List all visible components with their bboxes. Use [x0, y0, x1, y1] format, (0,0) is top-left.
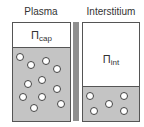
- pi-symbol: Π: [103, 53, 111, 65]
- protein-particle: [53, 65, 61, 73]
- interstitium-label: Interstitium: [82, 6, 140, 18]
- protein-particle: [105, 100, 113, 108]
- protein-particle: [90, 107, 98, 115]
- protein-particle: [27, 61, 35, 69]
- protein-particle: [57, 100, 65, 108]
- protein-particle: [24, 80, 32, 88]
- protein-particle: [16, 53, 24, 61]
- pi-symbol: Π: [31, 29, 39, 41]
- protein-particle: [42, 57, 50, 65]
- protein-particle: [120, 92, 128, 100]
- protein-particle: [53, 85, 61, 93]
- interstitial-oncotic-pressure: Πint: [83, 53, 139, 67]
- protein-particle: [38, 76, 46, 84]
- pi-subscript: cap: [39, 34, 52, 43]
- protein-particle: [86, 92, 94, 100]
- protein-particle: [19, 93, 27, 101]
- plasma-label: Plasma: [12, 6, 70, 18]
- protein-particle: [30, 104, 38, 112]
- protein-particle: [38, 93, 46, 101]
- capillary-membrane: [73, 22, 79, 121]
- protein-particle: [120, 107, 128, 115]
- pi-subscript: int: [111, 58, 119, 67]
- plasma-oncotic-pressure: Πcap: [13, 29, 70, 43]
